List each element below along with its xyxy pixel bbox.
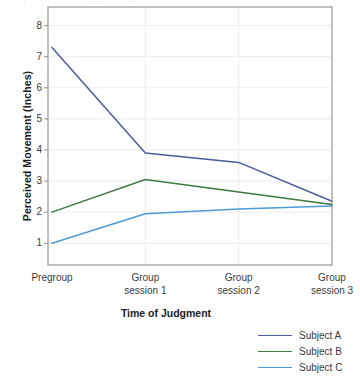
x-tick-label-line: session 2 bbox=[191, 285, 287, 298]
legend-label: Subject A bbox=[299, 330, 341, 341]
y-tick-label: 7 bbox=[24, 52, 42, 62]
y-tick-label: 8 bbox=[24, 21, 42, 31]
line-chart-figure: Perceived Movement (Inches) 12345678 Pre… bbox=[0, 0, 360, 378]
x-tick-labels: PregroupGroupsession 1Groupsession 2Grou… bbox=[0, 272, 360, 306]
legend-item: Subject A bbox=[258, 327, 360, 343]
x-tick-label-line: Group bbox=[284, 272, 360, 285]
x-tick-label-line: Group bbox=[191, 272, 287, 285]
x-tick-label-line: session 3 bbox=[284, 285, 360, 298]
y-tick-marks bbox=[44, 26, 48, 244]
chart-legend: Subject ASubject BSubject C bbox=[258, 327, 360, 375]
x-tick-label-line: Group bbox=[97, 272, 193, 285]
x-tick-label-line: Pregroup bbox=[4, 272, 100, 285]
legend-item: Subject C bbox=[258, 359, 360, 375]
legend-color-swatch bbox=[258, 335, 292, 336]
legend-color-swatch bbox=[258, 367, 292, 368]
x-tick-label-line: session 1 bbox=[97, 285, 193, 298]
y-tick-label: 4 bbox=[24, 145, 42, 155]
y-tick-label: 3 bbox=[24, 176, 42, 186]
x-tick-label: Pregroup bbox=[4, 272, 100, 285]
x-axis-title: Time of Judgment bbox=[0, 307, 332, 319]
legend-color-swatch bbox=[258, 351, 292, 352]
x-tick-label: Groupsession 2 bbox=[191, 272, 287, 297]
legend-label: Subject B bbox=[299, 346, 342, 357]
x-tick-label: Groupsession 3 bbox=[284, 272, 360, 297]
y-tick-label: 5 bbox=[24, 114, 42, 124]
x-tick-label: Groupsession 1 bbox=[97, 272, 193, 297]
legend-item: Subject B bbox=[258, 343, 360, 359]
plot-area bbox=[0, 0, 360, 378]
y-tick-label: 2 bbox=[24, 207, 42, 217]
plot-background bbox=[48, 7, 332, 265]
y-tick-label: 1 bbox=[24, 238, 42, 248]
legend-label: Subject C bbox=[299, 362, 342, 373]
y-tick-label: 6 bbox=[24, 83, 42, 93]
y-tick-labels: 12345678 bbox=[24, 0, 42, 378]
